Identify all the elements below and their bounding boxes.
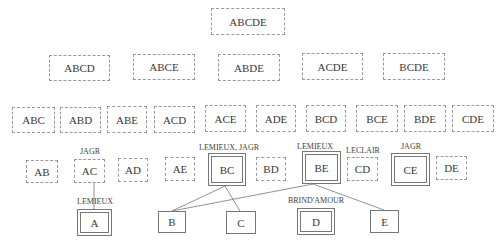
node-ab: AB <box>26 160 58 183</box>
node-cde: CDE <box>452 105 494 132</box>
node-cd: CD <box>347 157 378 181</box>
node-label: CE <box>394 156 427 183</box>
node-label: BC <box>211 156 243 183</box>
annotation-ce: JAGR <box>401 142 421 151</box>
node-bcd: BCD <box>306 105 346 132</box>
node-a: A <box>77 209 112 236</box>
node-e: E <box>370 210 399 233</box>
node-abe: ABE <box>107 106 147 133</box>
node-bce: BCE <box>356 105 398 132</box>
node-label: ACD <box>163 114 186 126</box>
node-label: ABDE <box>234 62 264 74</box>
node-be: BE <box>302 151 341 184</box>
node-ce: CE <box>391 153 430 186</box>
node-bde: BDE <box>404 105 446 132</box>
node-de: DE <box>436 156 467 180</box>
node-label: ACE <box>215 113 237 125</box>
node-abce: ABCE <box>133 54 195 80</box>
node-bcde: BCDE <box>383 53 445 80</box>
node-label: B <box>168 216 175 228</box>
node-label: DE <box>444 162 459 174</box>
node-label: AB <box>34 166 49 178</box>
node-c: C <box>226 211 256 234</box>
node-ac: AC <box>74 159 105 183</box>
node-abc: ABC <box>12 107 55 133</box>
annotation-d: BRIND'AMOUR <box>288 196 344 205</box>
node-label: C <box>237 217 244 229</box>
node-label: ABE <box>116 114 138 126</box>
node-label: ABCD <box>64 62 95 74</box>
node-label: AC <box>82 165 97 177</box>
node-label: BE <box>305 154 338 181</box>
node-ad: AD <box>118 158 148 182</box>
node-label: AD <box>125 164 141 176</box>
node-label: BCDE <box>399 61 428 73</box>
node-bd: BD <box>256 157 286 181</box>
node-label: E <box>381 216 388 228</box>
node-abcde: ABCDE <box>211 8 285 35</box>
node-abde: ABDE <box>218 54 280 81</box>
node-bc: BC <box>208 153 246 186</box>
node-label: ADE <box>265 113 288 125</box>
annotation-bc: LEMIEUX, JAGR <box>199 143 259 152</box>
edge-bc-b <box>172 186 225 211</box>
node-label: ABC <box>22 114 45 126</box>
annotation-ac: JAGR <box>80 147 100 156</box>
node-label: A <box>80 212 109 233</box>
annotation-be: LEMIEUX <box>297 142 333 151</box>
node-d: D <box>297 208 335 235</box>
node-label: D <box>300 211 332 232</box>
node-ace: ACE <box>205 105 246 132</box>
annotation-a: LEMIEUX <box>77 197 113 206</box>
node-label: BCD <box>315 113 338 125</box>
node-label: CD <box>355 163 370 175</box>
lattice-diagram: ABCDEABCDABCEABDEACDEBCDEABCABDABEACDACE… <box>0 0 504 249</box>
node-b: B <box>158 211 186 233</box>
node-label: CDE <box>462 113 484 125</box>
node-label: ACDE <box>318 61 348 73</box>
node-acd: ACD <box>154 106 195 133</box>
annotation-cd: LECLAIR <box>346 146 380 155</box>
node-abd: ABD <box>60 107 101 133</box>
node-ade: ADE <box>256 105 296 132</box>
node-label: BDE <box>414 113 436 125</box>
node-label: BD <box>263 163 278 175</box>
node-acde: ACDE <box>302 53 363 80</box>
node-label: ABD <box>69 114 92 126</box>
node-abcd: ABCD <box>49 55 110 81</box>
node-label: AE <box>173 163 188 175</box>
node-label: ABCDE <box>229 16 266 28</box>
node-label: BCE <box>366 113 387 125</box>
node-ae: AE <box>165 157 195 181</box>
node-label: ABCE <box>149 61 178 73</box>
